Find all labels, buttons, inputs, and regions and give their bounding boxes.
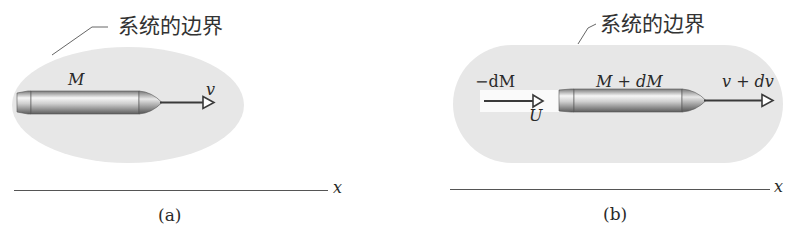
ejected-velocity-label: U bbox=[529, 108, 542, 124]
caption-b: (b) bbox=[603, 206, 627, 223]
boundary-leader-line bbox=[578, 24, 596, 44]
velocity-label: v bbox=[206, 82, 215, 98]
boundary-label: 系统的边界 bbox=[600, 14, 705, 35]
rocket bbox=[559, 89, 706, 112]
caption-a: (a) bbox=[158, 207, 181, 224]
x-axis-label: x bbox=[333, 180, 342, 196]
boundary-label: 系统的边界 bbox=[118, 16, 223, 37]
mass-label: M bbox=[68, 72, 84, 88]
ejected-mass-label: −dM bbox=[475, 74, 515, 90]
panel-a: 系统的边界 M v x (a) bbox=[0, 0, 400, 252]
panel-b-drawing bbox=[400, 0, 794, 252]
panel-b: 系统的边界 −dM U M + dM v + dv x (b) bbox=[400, 0, 794, 252]
rocket bbox=[17, 91, 162, 114]
mass-label: M + dM bbox=[596, 74, 663, 90]
x-axis-label: x bbox=[774, 179, 783, 195]
velocity-label: v + dv bbox=[722, 74, 774, 90]
